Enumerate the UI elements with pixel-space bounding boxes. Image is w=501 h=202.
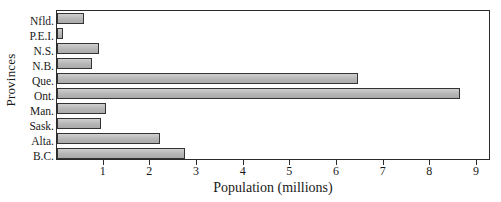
x-axis-title: Population (millions)	[56, 180, 490, 196]
x-axis-tick-label: 4	[240, 164, 246, 178]
y-axis-tick-label: Que.	[14, 75, 54, 87]
x-axis-tick-label: 8	[426, 164, 432, 178]
bar	[57, 43, 99, 54]
y-axis-tick-label: N.B.	[14, 60, 54, 72]
bar	[57, 103, 106, 114]
y-axis-tick-labels: Nfld.P.E.I.N.S.N.B.Que.Ont.Man.Sask.Alta…	[14, 13, 54, 160]
y-axis-tick-label: Alta.	[14, 135, 54, 147]
y-axis-tick-label: Nfld.	[14, 15, 54, 27]
y-axis-tick-label: Sask.	[14, 120, 54, 132]
y-axis-tick-label: N.S.	[14, 45, 54, 57]
y-axis-tick-label: B.C.	[14, 150, 54, 162]
x-axis-tick-label: 5	[286, 164, 292, 178]
bar	[57, 13, 84, 24]
x-axis-tick-label: 2	[146, 164, 152, 178]
y-axis-tick-label: P.E.I.	[14, 30, 54, 42]
x-axis-tick-label: 7	[380, 164, 386, 178]
x-axis-tick-label: 9	[473, 164, 479, 178]
y-axis-tick-label: Ont.	[14, 90, 54, 102]
y-axis-tick-label: Man.	[14, 105, 54, 117]
x-axis-tick-label: 6	[333, 164, 339, 178]
bar	[57, 133, 160, 144]
x-axis-tick-label: 1	[100, 164, 106, 178]
x-axis-title-text: Population (millions)	[213, 180, 332, 195]
x-axis-tick-labels: 123456789	[56, 164, 490, 179]
bar	[57, 148, 185, 159]
bar	[57, 28, 63, 39]
bar-series	[57, 11, 489, 159]
bar-chart-figure: Provinces Nfld.P.E.I.N.S.N.B.Que.Ont.Man…	[0, 0, 501, 202]
bar	[57, 58, 92, 69]
bar	[57, 88, 460, 99]
bar	[57, 118, 101, 129]
plot-area	[56, 10, 490, 160]
x-axis-tick-label: 3	[193, 164, 199, 178]
bar	[57, 73, 358, 84]
